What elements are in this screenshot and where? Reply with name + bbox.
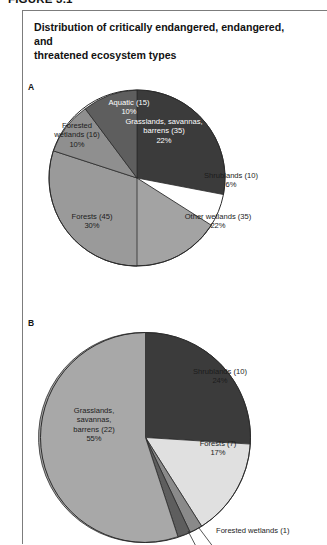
pie-chart-b — [38, 330, 253, 545]
leader-line-b-forested-wetlands — [199, 528, 214, 545]
pie-chart-b-svg — [38, 330, 253, 545]
panel-letter-b: B — [28, 318, 34, 328]
pie-slice-a-grasslands — [137, 90, 225, 195]
figure-title-line-2: threatened ecosystem types — [34, 48, 296, 62]
pie-chart-a — [47, 88, 227, 268]
figure-title-line-1: Distribution of critically endangered, e… — [34, 21, 284, 47]
panel-letter-a: A — [28, 82, 34, 92]
pie-slice-b-shrublands — [146, 333, 251, 445]
pie-chart-a-svg — [47, 88, 227, 268]
figure-title: Distribution of critically endangered, e… — [34, 20, 296, 62]
figure-number: FIGURE 3.1 — [8, 0, 73, 5]
